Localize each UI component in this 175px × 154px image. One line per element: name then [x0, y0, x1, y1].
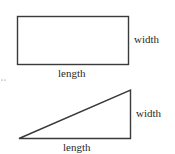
triangle-length-label: length — [63, 141, 91, 153]
margin-dot — [1, 79, 2, 80]
diagram-canvas — [0, 0, 175, 154]
rectangle-width-label: width — [134, 33, 159, 45]
margin-dot — [4, 79, 5, 80]
rectangle-shape — [18, 17, 129, 65]
triangle-width-label: width — [136, 107, 161, 119]
right-triangle-shape — [19, 90, 131, 139]
rectangle-length-label: length — [58, 67, 86, 79]
